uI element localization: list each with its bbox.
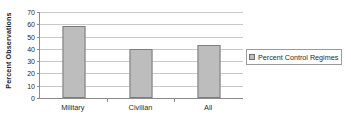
y-axis-title: Percent Observations	[0, 0, 16, 100]
plot-area	[39, 12, 243, 99]
bar-slot	[175, 12, 243, 98]
bar	[62, 26, 85, 98]
bar-slot	[108, 12, 176, 98]
legend-entry-label: Percent Control Regimes	[258, 53, 338, 62]
legend-swatch-icon	[249, 54, 255, 60]
x-axis-category-label: Civilian	[129, 103, 153, 112]
bar-chart: Percent Observations 010203040506070 Mil…	[0, 0, 351, 119]
x-axis-category-labels: MilitaryCivilianAll	[39, 103, 243, 117]
x-axis-category-label: Military	[61, 103, 84, 112]
y-axis-tick-label: 30	[27, 58, 35, 65]
bar	[198, 45, 221, 98]
bar	[130, 49, 153, 98]
x-axis-tickmark	[174, 99, 175, 102]
bars-layer	[40, 12, 243, 98]
y-axis-title-text: Percent Observations	[4, 12, 13, 88]
y-axis-tick-label: 0	[31, 95, 35, 102]
y-axis-tick-label: 20	[27, 70, 35, 77]
y-axis-tick-label: 50	[27, 33, 35, 40]
y-axis-tick-label: 10	[27, 82, 35, 89]
y-axis-tick-labels: 010203040506070	[16, 8, 37, 100]
y-axis-tick-label: 70	[27, 9, 35, 16]
chart-legend: Percent Control Regimes	[246, 49, 342, 65]
y-axis-tick-label: 60	[27, 21, 35, 28]
bar-slot	[40, 12, 108, 98]
x-axis-category-label: All	[204, 103, 212, 112]
x-axis-tickmark	[107, 99, 108, 102]
y-axis-tick-label: 40	[27, 45, 35, 52]
